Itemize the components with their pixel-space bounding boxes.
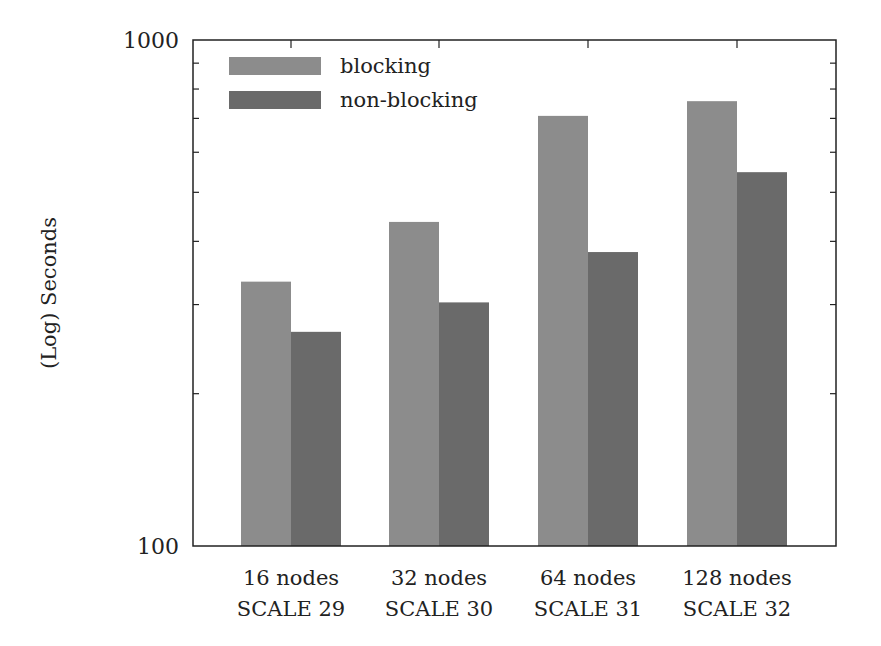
bar-blocking-0 bbox=[241, 282, 291, 546]
x-category-sublabel: SCALE 31 bbox=[534, 597, 642, 621]
bar-non-blocking-2 bbox=[588, 252, 638, 546]
bars-group bbox=[241, 101, 787, 546]
x-category-label: 32 nodes bbox=[391, 566, 487, 590]
legend-swatch-blocking bbox=[229, 57, 321, 75]
x-category-sublabel: SCALE 30 bbox=[385, 597, 493, 621]
legend: blockingnon-blocking bbox=[229, 54, 478, 112]
y-tick-label: 1000 bbox=[123, 28, 179, 53]
x-category-sublabel: SCALE 32 bbox=[683, 597, 791, 621]
x-category-label: 128 nodes bbox=[682, 566, 792, 590]
bar-blocking-1 bbox=[389, 222, 439, 546]
bar-non-blocking-1 bbox=[439, 302, 489, 546]
legend-label-non-blocking: non-blocking bbox=[340, 88, 478, 112]
x-category-sublabel: SCALE 29 bbox=[237, 597, 345, 621]
y-axis-label: (Log) Seconds bbox=[37, 217, 61, 369]
legend-swatch-non-blocking bbox=[229, 91, 321, 109]
y-tick-label: 100 bbox=[137, 534, 179, 559]
bar-blocking-2 bbox=[538, 116, 588, 546]
bar-non-blocking-3 bbox=[737, 172, 787, 546]
x-category-label: 64 nodes bbox=[540, 566, 636, 590]
x-category-label: 16 nodes bbox=[243, 566, 339, 590]
bar-chart: blockingnon-blocking 1001000(Log) Second… bbox=[0, 0, 881, 646]
bar-blocking-3 bbox=[687, 101, 737, 546]
legend-label-blocking: blocking bbox=[340, 54, 431, 78]
bar-non-blocking-0 bbox=[291, 332, 341, 546]
